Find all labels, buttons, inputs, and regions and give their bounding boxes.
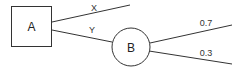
- node-a-label: A: [27, 20, 35, 34]
- edge-y: Y: [52, 25, 112, 42]
- edge-x: X: [52, 3, 130, 22]
- edge-x-label: X: [91, 3, 97, 13]
- edge-prob-low-label: 0.3: [200, 48, 213, 58]
- edge-y-line: [52, 30, 112, 42]
- edge-prob-high-label: 0.7: [200, 18, 213, 28]
- edge-y-label: Y: [89, 25, 95, 35]
- node-b-label: B: [127, 41, 135, 55]
- edge-prob-low-line: [149, 51, 232, 64]
- node-b: B: [112, 28, 150, 66]
- decision-tree-diagram: A X Y B 0.7 0.3: [0, 0, 239, 70]
- node-a: A: [12, 7, 52, 47]
- edge-prob-high-line: [150, 25, 232, 43]
- edge-prob-high: 0.7: [150, 18, 232, 43]
- edge-prob-low: 0.3: [149, 48, 232, 64]
